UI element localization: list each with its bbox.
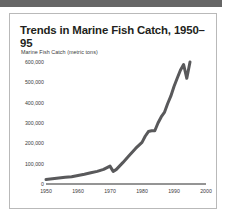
x-tick-label: 1980: [129, 188, 155, 194]
y-tick-label: 100,000: [10, 161, 44, 167]
chart-figure: Trends in Marine Fish Catch, 1950–95 Mar…: [0, 0, 227, 218]
y-tick-label: 200,000: [10, 140, 44, 146]
y-tick-label: 600,000: [10, 59, 44, 65]
x-tick-label: 1970: [97, 188, 123, 194]
y-tick-label: 400,000: [10, 100, 44, 106]
y-tick-label: 500,000: [10, 79, 44, 85]
x-tick-label: 1960: [65, 188, 91, 194]
figure-border: Trends in Marine Fish Catch, 1950–95 Mar…: [9, 13, 217, 209]
top-decoration-band: [0, 0, 222, 7]
y-tick-label: 300,000: [10, 120, 44, 126]
plot-area: 0100,000200,000300,000400,000500,000600,…: [10, 14, 218, 210]
y-tick-label: 0: [10, 181, 44, 187]
x-tick-label: 2000: [193, 188, 219, 194]
x-tick-label: 1990: [161, 188, 187, 194]
series-line-marine-fish-catch: [46, 62, 190, 179]
x-tick-label: 1950: [33, 188, 59, 194]
